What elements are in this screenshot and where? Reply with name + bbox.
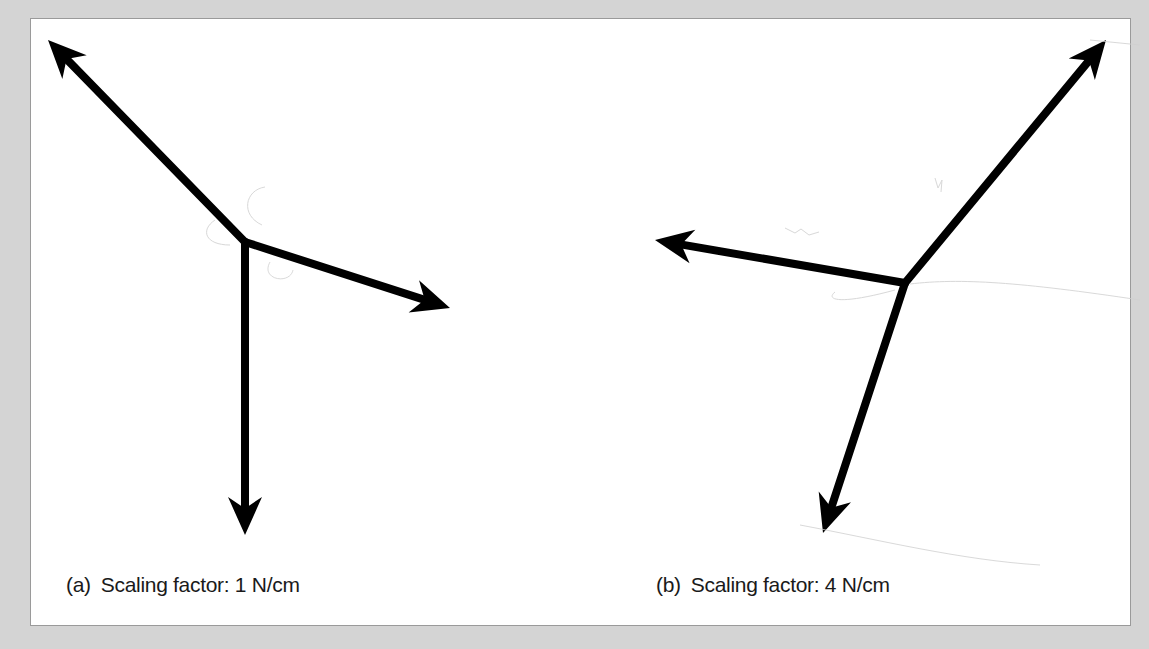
pencil-marks [207,40,1140,565]
caption-a: (a)Scaling factor: 1 N/cm [66,573,300,597]
force-vector-up-right [905,61,1089,283]
caption-b: (b)Scaling factor: 4 N/cm [656,573,890,597]
caption-a-text: Scaling factor: 1 N/cm [101,573,300,596]
force-vector-left [682,245,905,283]
caption-b-text: Scaling factor: 4 N/cm [691,573,890,596]
subfigure-a-vectors [48,40,450,535]
force-vector-down-left [832,283,905,507]
caption-a-label: (a) [66,573,91,596]
force-vector-diagram [0,0,1149,649]
force-vector-right-down [245,242,424,300]
force-vector-up-left [67,60,245,242]
caption-b-label: (b) [656,573,681,596]
